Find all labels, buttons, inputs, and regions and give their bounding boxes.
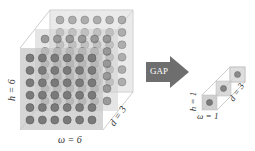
feature-dot <box>88 104 96 112</box>
feature-dot <box>103 60 111 68</box>
feature-dot <box>56 16 64 24</box>
feature-dot <box>68 16 76 24</box>
feature-dot <box>76 104 84 112</box>
feature-dot <box>88 79 96 87</box>
feature-dot <box>76 54 84 62</box>
feature-dot <box>76 66 84 74</box>
feature-dot <box>103 47 111 55</box>
feature-dot <box>63 116 71 124</box>
output-width-label: ω = 1 <box>197 112 218 121</box>
feature-dot <box>118 78 126 86</box>
feature-dot <box>63 79 71 87</box>
feature-dot <box>51 116 59 124</box>
feature-dot <box>76 116 84 124</box>
feature-dot <box>66 35 74 43</box>
feature-dot <box>51 66 59 74</box>
feature-dot <box>118 66 126 74</box>
feature-dot <box>51 91 59 99</box>
feature-dot <box>103 72 111 80</box>
feature-dot <box>26 91 34 99</box>
feature-dot <box>38 104 46 112</box>
feature-dot <box>41 35 49 43</box>
feature-dot <box>38 91 46 99</box>
gap-label: GAP <box>150 67 168 76</box>
input-height-label: h = 6 <box>7 72 17 108</box>
feature-dot <box>38 116 46 124</box>
output-cell-1 <box>202 95 217 110</box>
feature-dot <box>88 116 96 124</box>
feature-dot <box>81 16 89 24</box>
feature-dot <box>118 41 126 49</box>
feature-dot <box>63 54 71 62</box>
feature-dot <box>88 66 96 74</box>
gap-diagram <box>0 0 255 151</box>
feature-dot <box>51 104 59 112</box>
feature-dot <box>103 35 111 43</box>
feature-dot <box>63 104 71 112</box>
feature-dot <box>26 104 34 112</box>
feature-dot <box>106 16 114 24</box>
feature-dot <box>91 35 99 43</box>
feature-dot <box>38 79 46 87</box>
feature-dot <box>93 16 101 24</box>
feature-dot <box>103 97 111 105</box>
feature-dot <box>26 79 34 87</box>
feature-dot <box>76 91 84 99</box>
feature-dot <box>78 35 86 43</box>
feature-dot <box>118 53 126 61</box>
feature-dot <box>53 35 61 43</box>
feature-dot <box>26 66 34 74</box>
input-width-label: ω = 6 <box>58 135 82 145</box>
feature-dot <box>118 16 126 24</box>
feature-dot <box>118 28 126 36</box>
feature-dot <box>88 91 96 99</box>
feature-dot <box>51 54 59 62</box>
feature-dot <box>51 79 59 87</box>
feature-dot <box>38 54 46 62</box>
feature-dot <box>26 116 34 124</box>
feature-dot <box>26 54 34 62</box>
channel-layer-1 <box>20 48 103 130</box>
feature-dot <box>76 79 84 87</box>
feature-dot <box>63 66 71 74</box>
feature-dot <box>103 85 111 93</box>
feature-dot <box>63 91 71 99</box>
feature-dot <box>88 54 96 62</box>
feature-dot <box>38 66 46 74</box>
